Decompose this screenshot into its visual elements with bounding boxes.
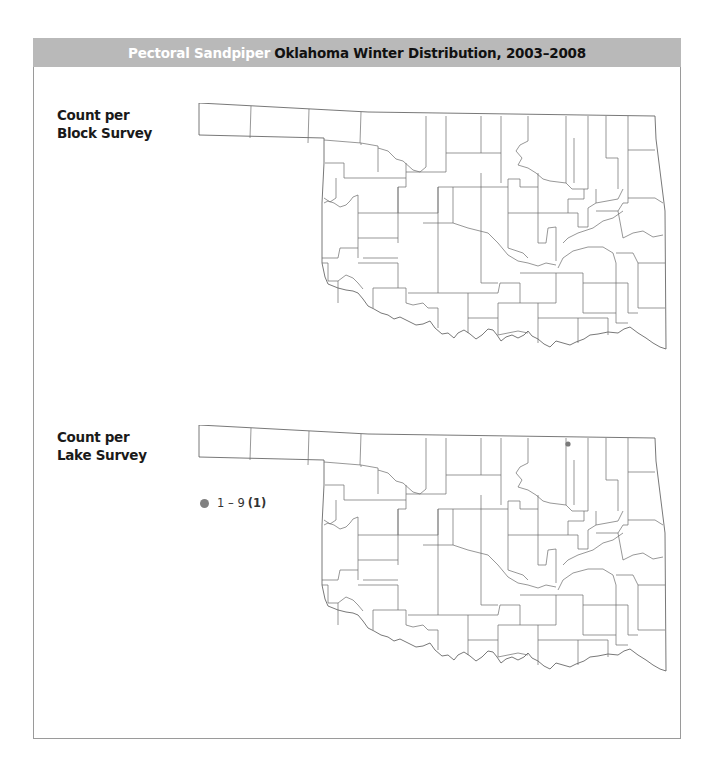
label-line-1: Count per	[57, 428, 147, 446]
label-line-2: Block Survey	[57, 124, 152, 142]
panel-label-lake-survey: Count per Lake Survey	[57, 428, 147, 464]
oklahoma-county-map-lake	[198, 425, 668, 695]
oklahoma-county-map-block	[198, 103, 668, 373]
species-name: Pectoral Sandpiper	[128, 45, 270, 61]
label-line-1: Count per	[57, 106, 152, 124]
figure-title-bar: Pectoral Sandpiper Oklahoma Winter Distr…	[33, 38, 681, 67]
observation-point	[565, 441, 570, 446]
label-line-2: Lake Survey	[57, 446, 147, 464]
panel-label-block-survey: Count per Block Survey	[57, 106, 152, 142]
figure-title: Oklahoma Winter Distribution, 2003–2008	[274, 45, 586, 61]
